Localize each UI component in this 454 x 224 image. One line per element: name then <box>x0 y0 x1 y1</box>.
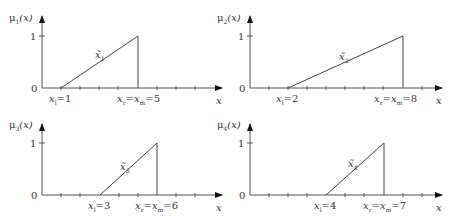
y-tick-label-0: 0 <box>31 190 37 201</box>
y-tick-label-0: 0 <box>31 83 37 94</box>
y-axis-label: μ2(x) <box>217 12 241 25</box>
y-axis-label: μ1(x) <box>9 12 33 25</box>
y-tick-label-1: 1 <box>30 138 36 149</box>
curve-label: x̃3 <box>120 161 130 174</box>
right-point-label: xr=xm=8 <box>374 93 417 106</box>
membership-triangle <box>61 36 138 88</box>
x-axis-label: x <box>436 202 442 213</box>
left-point-label: xl=2 <box>276 93 298 106</box>
x-axis-label: x <box>216 95 222 106</box>
curve-label: x̃1 <box>95 49 104 62</box>
y-tick-label-1: 1 <box>238 31 244 42</box>
left-point-label: xl=1 <box>49 93 71 106</box>
y-tick-label-0: 0 <box>239 83 245 94</box>
left-point-label: xl=3 <box>88 200 110 213</box>
y-tick-label-1: 1 <box>238 138 244 149</box>
x-axis-label: x <box>436 95 442 106</box>
right-point-label: xr=xm=7 <box>363 200 406 213</box>
y-axis-label: μ4(x) <box>217 119 241 132</box>
y-tick-label-1: 1 <box>30 31 36 42</box>
curve-label: x̃4 <box>348 158 358 171</box>
left-point-label: xl=4 <box>314 200 336 213</box>
panel-3: μ3(x) 1 0 x x̃3 xl=3 xr=xm=6 <box>9 119 222 213</box>
x-axis-label: x <box>216 202 222 213</box>
y-tick-label-0: 0 <box>239 190 245 201</box>
panel-4: μ4(x) 1 0 x x̃4 xl=4 xr=xm=7 <box>217 119 442 213</box>
curve-label: x̃2 <box>339 51 349 64</box>
right-point-label: xr=xm=5 <box>117 93 160 106</box>
panel-1: μ1(x) 1 0 x x̃1 xl=1 xr=xm=5 <box>9 12 222 106</box>
membership-functions-diagram: μ1(x) 1 0 x x̃1 xl=1 xr=xm=5 μ2(x) 1 0 x… <box>0 0 454 224</box>
y-axis-label: μ3(x) <box>9 119 33 132</box>
panel-2: μ2(x) 1 0 x x̃2 xl=2 xr=xm=8 <box>217 12 442 106</box>
right-point-label: xr=xm=6 <box>135 200 178 213</box>
